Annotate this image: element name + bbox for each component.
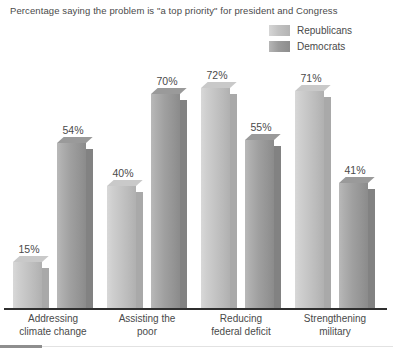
bar-value-label: 40% bbox=[105, 167, 141, 179]
legend-label-democrats: Democrats bbox=[297, 41, 345, 52]
bar-side-face bbox=[180, 100, 187, 308]
bar-side-face bbox=[230, 94, 237, 308]
bar-republicans-0 bbox=[13, 262, 42, 308]
bar-value-label: 72% bbox=[199, 69, 235, 81]
bar-top-face bbox=[13, 256, 49, 262]
legend-item-democrats: Democrats bbox=[269, 39, 389, 53]
legend-swatch-democrats bbox=[269, 41, 290, 52]
legend-item-republicans: Republicans bbox=[269, 23, 389, 37]
category-axis-labels: Addressingclimate changeAssisting thepoo… bbox=[0, 313, 393, 345]
bottom-divider bbox=[0, 346, 393, 347]
category-label-3: Strengtheningmilitary bbox=[279, 313, 391, 338]
bar-chart: Percentage saying the problem is "a top … bbox=[0, 0, 393, 353]
bar-republicans-3 bbox=[295, 91, 324, 308]
category-label-line: Strengthening bbox=[279, 313, 391, 326]
plot-area: 15%54%40%70%72%55%71%41% bbox=[0, 60, 393, 310]
bar-front-face bbox=[57, 143, 86, 308]
bar-democrats-0 bbox=[57, 143, 86, 308]
bar-front-face bbox=[339, 183, 368, 308]
bar-democrats-3 bbox=[339, 183, 368, 308]
bar-value-label: 54% bbox=[55, 124, 91, 136]
bar-front-face bbox=[151, 94, 180, 308]
x-axis-baseline bbox=[4, 308, 387, 310]
bar-value-label: 41% bbox=[337, 164, 373, 176]
bar-top-face bbox=[107, 180, 143, 186]
bar-side-face bbox=[136, 192, 143, 308]
bar-top-face bbox=[339, 177, 375, 183]
chart-title: Percentage saying the problem is "a top … bbox=[10, 5, 338, 16]
category-label-line: military bbox=[279, 326, 391, 339]
bar-front-face bbox=[13, 262, 42, 308]
chart-legend: Republicans Democrats bbox=[269, 23, 389, 55]
bar-top-face bbox=[201, 82, 237, 88]
bar-top-face bbox=[245, 134, 281, 140]
bottom-progress-mark bbox=[0, 345, 42, 348]
bar-front-face bbox=[295, 91, 324, 308]
bar-value-label: 15% bbox=[11, 243, 47, 255]
bar-side-face bbox=[274, 146, 281, 308]
bar-side-face bbox=[368, 189, 375, 308]
bar-republicans-1 bbox=[107, 186, 136, 308]
bar-value-label: 55% bbox=[243, 121, 279, 133]
bar-top-face bbox=[151, 88, 187, 94]
legend-label-republicans: Republicans bbox=[297, 25, 352, 36]
legend-swatch-republicans bbox=[269, 25, 290, 36]
bar-value-label: 71% bbox=[293, 72, 329, 84]
bar-democrats-2 bbox=[245, 140, 274, 308]
bar-front-face bbox=[107, 186, 136, 308]
bar-value-label: 70% bbox=[149, 75, 185, 87]
bar-front-face bbox=[201, 88, 230, 308]
bar-top-face bbox=[57, 137, 93, 143]
bar-side-face bbox=[86, 149, 93, 308]
bar-top-face bbox=[295, 85, 331, 91]
bar-republicans-2 bbox=[201, 88, 230, 308]
bar-side-face bbox=[324, 97, 331, 308]
bar-side-face bbox=[42, 268, 49, 308]
bar-democrats-1 bbox=[151, 94, 180, 308]
bar-front-face bbox=[245, 140, 274, 308]
